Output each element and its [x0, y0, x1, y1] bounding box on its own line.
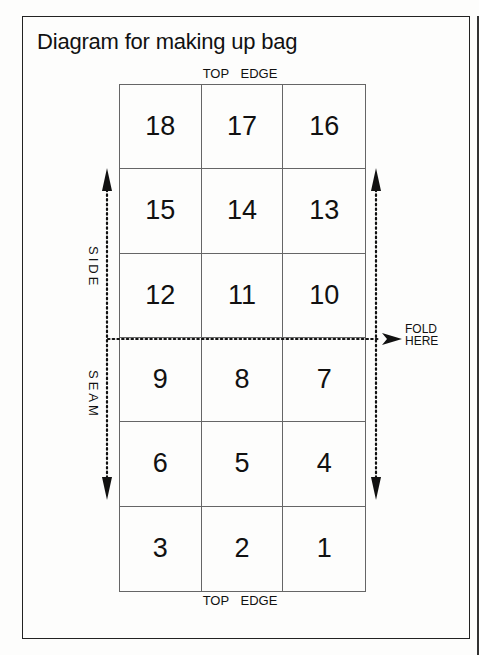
- right-vertical-arrow-icon: [371, 168, 381, 500]
- side-label: SIDE: [86, 246, 101, 288]
- fold-label-line2: HERE: [405, 335, 438, 347]
- seam-label: SEAM: [86, 370, 101, 419]
- side-seam-arrow-icon: [102, 168, 112, 500]
- fold-here-label: FOLD HERE: [405, 323, 438, 347]
- fold-line-arrow-icon: [108, 333, 402, 345]
